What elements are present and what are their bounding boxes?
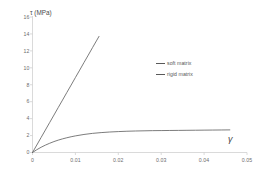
legend-item-rigid-matrix[interactable]: rigid matrix xyxy=(156,71,193,77)
y-tick-label: 14 xyxy=(16,31,30,37)
legend-label-rigid-matrix: rigid matrix xyxy=(167,71,193,77)
x-axis-title: γ xyxy=(228,134,233,144)
x-tick-label: 0.01 xyxy=(63,157,87,163)
series-line-soft-matrix xyxy=(33,36,100,152)
y-tick-label: 0 xyxy=(16,149,30,155)
y-tick-label: 2 xyxy=(16,132,30,138)
chart-legend: soft matrix rigid matrix xyxy=(156,60,193,77)
legend-line-swatch-soft-matrix xyxy=(156,63,165,64)
y-tick-label: 16 xyxy=(16,14,30,20)
y-tick-label: 12 xyxy=(16,48,30,54)
y-tick-label: 6 xyxy=(16,98,30,104)
x-tick-label: 0.04 xyxy=(192,157,216,163)
legend-line-swatch-rigid-matrix xyxy=(156,74,165,75)
y-tick-label: 10 xyxy=(16,65,30,71)
legend-label-soft-matrix: soft matrix xyxy=(167,60,191,66)
x-tick-label: 0.03 xyxy=(149,157,173,163)
y-axis-title: τ (MPa) xyxy=(30,9,52,16)
legend-item-soft-matrix[interactable]: soft matrix xyxy=(156,60,193,66)
x-tick-label: 0.05 xyxy=(235,157,254,163)
plot-area xyxy=(0,0,254,181)
y-tick-label: 4 xyxy=(16,115,30,121)
y-tick-label: 8 xyxy=(16,82,30,88)
x-tick-label: 0.02 xyxy=(106,157,130,163)
x-tick-label: 0 xyxy=(21,157,45,163)
series-line-rigid-matrix xyxy=(33,130,230,153)
chart-container: τ (MPa) γ 0246810121416 00.010.020.030.0… xyxy=(0,0,254,181)
